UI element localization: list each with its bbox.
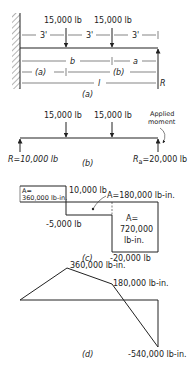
shear-mid-label: -5,000 lb	[46, 220, 82, 229]
caption-a: (a)	[82, 90, 93, 99]
svg-text:3': 3'	[40, 31, 47, 40]
moment-mid-label: 180,000 lb-in.	[113, 279, 169, 288]
caption-b: (b)	[82, 159, 93, 168]
right-reaction-label: Ra=20,000 lb	[133, 155, 187, 166]
dim-b: b	[70, 57, 75, 66]
svg-text:720,000: 720,000	[120, 225, 153, 234]
figure-c-shear-diagram: A= 360,000 lb-in. 10,000 lb A=180,000 lb…	[20, 186, 175, 263]
left-reaction-label: R=10,000 lb	[8, 155, 58, 164]
moment-end-label: -540,000 lb-in.	[128, 350, 187, 359]
svg-text:lb-in.: lb-in.	[124, 236, 144, 245]
shear-top-label: 10,000 lb	[69, 186, 107, 195]
svg-text:3': 3'	[86, 31, 93, 40]
dim-a: a	[133, 57, 138, 66]
load-label-1: 15,000 lb	[44, 16, 82, 25]
fixed-wall	[12, 13, 20, 89]
dim-paren-a: (a)	[35, 68, 46, 77]
dim-l: l	[98, 79, 101, 88]
reaction-label: R	[160, 79, 166, 88]
beam-analysis-diagram: 15,000 lb 15,000 lb 3' 3' 3' b a (a)	[0, 0, 194, 377]
load-label-2: 15,000 lb	[94, 16, 132, 25]
figure-b-free-body: 15,000 lb 15,000 lb Applied moment R=10,…	[8, 110, 187, 168]
area3-label: A=	[126, 214, 138, 223]
caption-d: (d)	[82, 350, 93, 359]
applied-moment-label: Applied	[150, 110, 174, 118]
svg-text:360,000 lb-in.: 360,000 lb-in.	[22, 194, 67, 202]
dim-paren-b: (b)	[113, 68, 124, 77]
figure-a-cantilever: 15,000 lb 15,000 lb 3' 3' 3' b a (a)	[12, 13, 166, 99]
moment-arrow-icon	[160, 128, 165, 143]
load-label-b1: 15,000 lb	[44, 111, 82, 120]
svg-text:moment: moment	[148, 118, 176, 126]
area2-label: A=180,000 lb-in.	[107, 191, 175, 200]
figure-d-moment-diagram: 360,000 lb-in. 180,000 lb-in. -540,000 l…	[20, 261, 187, 359]
load-label-b2: 15,000 lb	[94, 111, 132, 120]
span-dimensions: 3' 3' 3'	[22, 31, 158, 40]
svg-text:3': 3'	[132, 31, 139, 40]
moment-peak-label: 360,000 lb-in.	[70, 261, 126, 270]
